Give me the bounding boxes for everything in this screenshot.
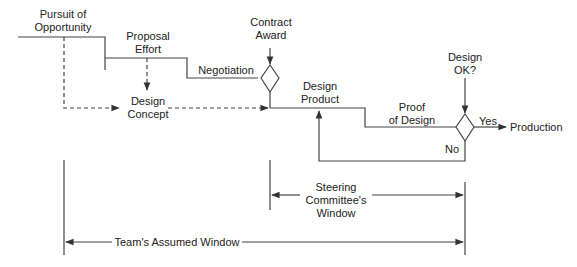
contract-award-label: ContractAward [243,16,299,42]
negotiation-label: Negotiation [195,64,257,77]
yes-label: Yes [479,115,497,128]
proof-of-design-label: Proofof Design [382,101,442,127]
pursuit-to-concept-dashed [64,37,119,108]
pursuit-label: Pursuit ofOpportunity [28,8,98,34]
team-window-label: Team's Assumed Window [114,236,240,249]
production-label: Production [510,121,563,134]
design-product-label: DesignProduct [292,80,348,106]
design-concept-label: DesignConcept [120,95,176,121]
steering-window-label: SteeringCommittee'sWindow [296,181,376,220]
contract-decision-diamond [261,65,279,92]
design-ok-diamond [456,114,474,141]
process-diagram: Pursuit ofOpportunity ProposalEffort Neg… [0,0,577,267]
pursuit-line [18,37,105,70]
proposal-label: ProposalEffort [118,30,178,56]
design-ok-label: DesignOK? [440,51,490,77]
no-label: No [445,143,459,156]
